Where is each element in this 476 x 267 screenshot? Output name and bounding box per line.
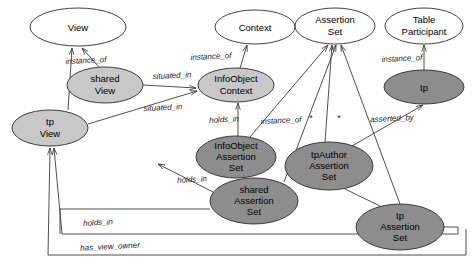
edge-infoobject-context-instance-of (240, 45, 247, 68)
node-context-label: Context (239, 22, 272, 33)
node-tp-view-label-line2: View (40, 128, 61, 139)
node-tp[interactable]: tp (384, 70, 464, 104)
node-tp-label: tp (420, 82, 428, 93)
node-tpauthor-assertion-set-line3: Set (322, 171, 337, 182)
edge-label-situated-in-shared: situated_in (152, 70, 192, 81)
node-infoobject-assertion-set-line1: InfoObject (214, 140, 258, 151)
node-shared-view-label-line2: View (95, 85, 116, 96)
node-assertion-set[interactable]: Assertion Set (295, 8, 375, 44)
edge-shared-view-situated-in (143, 85, 196, 88)
edge-label-situated-in-tp-view: situated_in (143, 102, 183, 113)
edge-label-instance-of-view: instance_of (65, 55, 107, 66)
node-infoobject-assertion-set[interactable]: InfoObject Assertion Set (196, 136, 276, 178)
edge-label-has-view-owner: has_view_owner (80, 241, 140, 253)
node-tpauthor-assertion-set[interactable]: tpAuthor Assertion Set (285, 142, 373, 190)
node-shared-assertion-set[interactable]: shared Assertion Set (210, 178, 298, 224)
multiplicity-layer: * * (309, 113, 341, 123)
node-context[interactable]: Context (215, 10, 295, 44)
node-table-participant-label-line2: Participant (402, 26, 447, 37)
node-tp-view[interactable]: tp View (12, 110, 88, 146)
node-tp-view-label-line1: tp (46, 116, 54, 127)
node-tpauthor-assertion-set-line1: tpAuthor (311, 149, 347, 160)
entity-relationship-diagram: View --> View (vertical) --> InfoObject … (0, 0, 476, 267)
multiplicity-marker-sharedset: * (337, 113, 341, 123)
node-tp-assertion-set[interactable]: tp Assertion Set (356, 204, 444, 250)
node-assertion-set-label-line1: Assertion (315, 14, 355, 25)
node-view[interactable]: View (30, 8, 126, 46)
node-infoobject-context[interactable]: InfoObject Context (198, 68, 274, 102)
edge-label-asserted-by: asserted_by (370, 113, 415, 124)
node-shared-assertion-set-line2: Assertion (234, 195, 274, 206)
node-table-participant[interactable]: Table Participant (385, 8, 463, 44)
edge-label-instance-of-assertion-set: instance_of (260, 115, 302, 126)
node-assertion-set-label-line2: Set (328, 26, 343, 37)
edge-tpauthor-asserted-by-tp (352, 105, 423, 146)
node-tp-assertion-set-line2: Assertion (380, 221, 420, 232)
edge-label-holds-in-bottom: holds_in (83, 217, 114, 228)
node-table-participant-label-line1: Table (413, 14, 436, 25)
node-infoobject-assertion-set-line3: Set (229, 162, 244, 173)
node-shared-view[interactable]: shared View (67, 67, 143, 103)
edge-label-holds-in-context: holds_in (209, 114, 240, 125)
node-infoobject-assertion-set-line2: Assertion (216, 151, 256, 162)
node-tp-assertion-set-line1: tp (396, 210, 404, 221)
edge-label-instance-of-table-participant: instance_of (381, 53, 423, 64)
node-shared-assertion-set-line1: shared (239, 184, 268, 195)
edge-tp-assertion-set-to-tpauthor (345, 189, 380, 206)
node-shared-assertion-set-line3: Set (247, 206, 262, 217)
node-infoobject-context-label-line1: InfoObject (214, 73, 258, 84)
node-tp-assertion-set-line3: Set (393, 232, 408, 243)
multiplicity-marker-tpauthor: * (309, 113, 313, 123)
diagram-canvas: View --> View (vertical) --> InfoObject … (0, 0, 476, 267)
node-view-label: View (68, 22, 89, 33)
edge-label-instance-of-context: instance_of (190, 51, 232, 62)
edge-label-holds-in-shared: holds_in (177, 174, 208, 185)
node-tpauthor-assertion-set-line2: Assertion (309, 160, 349, 171)
node-shared-view-label-line1: shared (90, 73, 119, 84)
node-infoobject-context-label-line2: Context (220, 85, 253, 96)
